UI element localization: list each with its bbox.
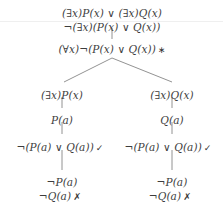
tableau-node-formula: (∃x)P(x) bbox=[41, 89, 83, 101]
star-icon: ∗ bbox=[156, 45, 166, 55]
tableau-node-formula: P(a) bbox=[51, 114, 73, 126]
tableau-node-formula: Q(a) bbox=[160, 114, 183, 126]
tableau-node-formula: ¬Q(a) bbox=[149, 190, 181, 202]
check-icon: ✓ bbox=[202, 143, 212, 153]
tableau-node-left-disjunct: (∃x)P(x) bbox=[41, 90, 83, 101]
tableau-node-closed-branch: ¬Q(a)✗ bbox=[39, 191, 81, 202]
semantic-tableau-diagram: (∃x)P(x) ∨ (∃x)Q(x)¬(∃x)(P(x) ∨ Q(x))(∀x… bbox=[0, 0, 223, 208]
tableau-node-existential-instantiation: P(a) bbox=[51, 115, 73, 126]
tableau-node-formula: ¬Q(a) bbox=[39, 190, 71, 202]
tableau-edge-branch-right bbox=[112, 58, 172, 82]
tableau-edge-branch-left bbox=[64, 58, 112, 82]
tableau-node-formula: ¬P(a) bbox=[47, 176, 78, 188]
tableau-node-formula: ¬P(a) bbox=[157, 176, 188, 188]
tableau-node-universal-instantiation: ¬(P(a) ∨ Q(a))✓ bbox=[125, 142, 212, 153]
tableau-node-quantifier-exchange: (∀x)¬(P(x) ∨ Q(x))∗ bbox=[58, 44, 165, 55]
tableau-node-de-morgan-conjunct: ¬P(a) bbox=[47, 177, 78, 188]
tableau-node-universal-instantiation: ¬(P(a) ∨ Q(a))✓ bbox=[17, 142, 104, 153]
tableau-node-root-goal: (∃x)P(x) ∨ (∃x)Q(x) bbox=[62, 8, 162, 19]
cross-icon: ✗ bbox=[181, 191, 191, 202]
tableau-node-existential-instantiation: Q(a) bbox=[160, 115, 183, 126]
tableau-node-formula: ¬(P(a) ∨ Q(a)) bbox=[17, 141, 94, 153]
tableau-node-right-disjunct: (∃x)Q(x) bbox=[150, 90, 193, 101]
tableau-node-formula: ¬(∃x)(P(x) ∨ Q(x)) bbox=[64, 21, 161, 33]
check-icon: ✓ bbox=[94, 143, 104, 153]
tableau-node-closed-branch: ¬Q(a)✗ bbox=[149, 191, 191, 202]
tableau-node-formula: (∃x)P(x) ∨ (∃x)Q(x) bbox=[62, 7, 162, 19]
tableau-node-formula: (∃x)Q(x) bbox=[150, 89, 193, 101]
cross-icon: ✗ bbox=[71, 191, 81, 202]
tableau-node-negated-assumption: ¬(∃x)(P(x) ∨ Q(x)) bbox=[64, 22, 161, 33]
tableau-node-formula: ¬(P(a) ∨ Q(a)) bbox=[125, 141, 202, 153]
tableau-node-de-morgan-conjunct: ¬P(a) bbox=[157, 177, 188, 188]
tableau-node-formula: (∀x)¬(P(x) ∨ Q(x)) bbox=[58, 43, 156, 55]
